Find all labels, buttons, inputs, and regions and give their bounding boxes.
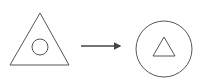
inner-triangle-icon xyxy=(153,37,175,56)
target-figure xyxy=(136,21,192,77)
transformation-diagram xyxy=(0,0,197,82)
source-figure xyxy=(10,13,69,65)
outer-circle-icon xyxy=(136,21,192,77)
inner-circle-icon xyxy=(32,39,48,55)
